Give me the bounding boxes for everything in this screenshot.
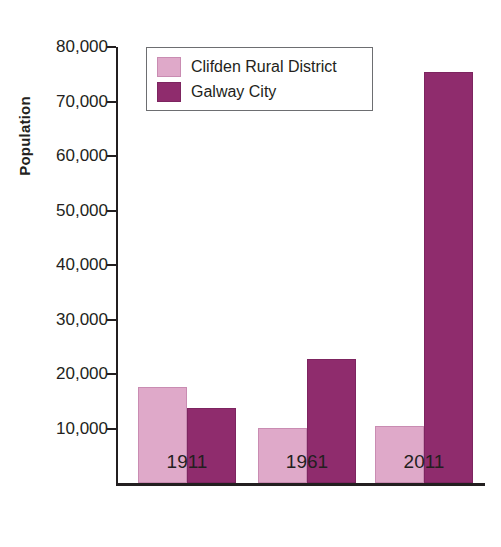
y-axis-tick-label: 10,000 — [30, 420, 108, 437]
bar — [424, 72, 473, 483]
y-axis-tick-mark — [107, 101, 116, 103]
y-axis-tick-label: 70,000 — [30, 93, 108, 110]
legend-label: Clifden Rural District — [191, 59, 337, 75]
x-axis-tick-label: 2011 — [374, 452, 474, 471]
x-axis-tick-label: 1961 — [257, 452, 357, 471]
y-axis-tick-mark — [107, 155, 116, 157]
y-axis-tick-mark — [107, 264, 116, 266]
y-axis-tick-label: 20,000 — [30, 365, 108, 382]
y-axis-tick-label: 60,000 — [30, 147, 108, 164]
legend-entry-clifden-rural-district: Clifden Rural District — [157, 54, 372, 79]
y-axis-tick-label: 40,000 — [30, 256, 108, 273]
chart-legend: Clifden Rural District Galway City — [146, 47, 373, 111]
y-axis-tick-mark — [107, 428, 116, 430]
y-axis-line — [116, 47, 118, 483]
y-axis-tick-label: 50,000 — [30, 202, 108, 219]
bar-chart-figure: Population 10,00020,00030,00040,00050,00… — [0, 0, 501, 547]
legend-entry-galway-city: Galway City — [157, 79, 372, 104]
legend-label: Galway City — [191, 84, 276, 100]
y-axis-tick-label: 80,000 — [30, 38, 108, 55]
x-axis-tick-label: 1911 — [137, 452, 237, 471]
legend-swatch-icon — [157, 82, 181, 102]
x-axis-line — [116, 483, 485, 486]
y-axis-tick-label: 30,000 — [30, 311, 108, 328]
y-axis-tick-mark — [107, 373, 116, 375]
y-axis-tick-mark — [107, 46, 116, 48]
plot-area — [116, 47, 484, 483]
legend-swatch-icon — [157, 57, 181, 77]
y-axis-tick-mark — [107, 319, 116, 321]
y-axis-tick-labels: 10,00020,00030,00040,00050,00060,00070,0… — [30, 0, 108, 547]
y-axis-tick-mark — [107, 210, 116, 212]
